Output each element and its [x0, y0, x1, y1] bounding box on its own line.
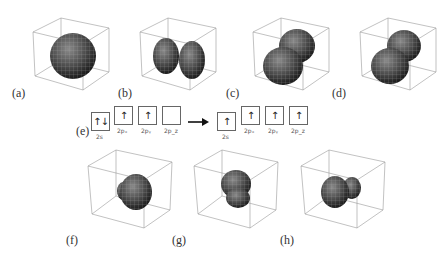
- orbital-box-2py-after: ↑: [265, 106, 284, 125]
- panel-label-g: (g): [172, 233, 186, 248]
- orbital-label: 2p_z: [291, 127, 305, 134]
- bounding-box-icon: [132, 10, 222, 100]
- panel-label-h: (h): [280, 233, 294, 248]
- config-label-e: (e): [76, 124, 89, 139]
- bounding-box-icon: [352, 10, 441, 100]
- panel-label-a: (a): [12, 86, 25, 101]
- orbital-label: 2pₓ: [117, 127, 127, 134]
- bounding-box-icon: [295, 144, 390, 239]
- orbital-box-2s-after: ↑: [217, 112, 236, 131]
- orbital-box-2pz-before: [162, 106, 181, 125]
- orbital-label: 2s: [222, 133, 229, 140]
- orbital-label: 2p_z: [164, 127, 178, 134]
- transition-arrow-icon: [188, 112, 210, 131]
- panel-b: [132, 10, 222, 100]
- orbital-box-2py-before: ↑: [138, 106, 157, 125]
- orbital-label: 2s: [96, 133, 103, 140]
- orbital-box-2pz-after: ↑: [289, 106, 308, 125]
- orbital-box-2s-before: ↑↓: [91, 112, 110, 131]
- orbital-box-2px-before: ↑: [114, 106, 133, 125]
- panel-h: [295, 144, 390, 239]
- panel-c: [245, 10, 335, 100]
- panel-g: [188, 144, 283, 239]
- bounding-box-icon: [82, 144, 177, 239]
- orbital-box-2px-after: ↑: [241, 106, 260, 125]
- orbital-label: 2pᵧ: [268, 127, 278, 134]
- panel-a: [25, 10, 115, 100]
- bounding-box-icon: [245, 10, 335, 100]
- orbital-label: 2pₓ: [244, 127, 254, 134]
- panel-d: [352, 10, 441, 100]
- panel-label-f: (f): [66, 233, 78, 248]
- bounding-box-icon: [25, 10, 115, 100]
- panel-label-b: (b): [118, 86, 132, 101]
- panel-label-d: (d): [332, 86, 346, 101]
- bounding-box-icon: [188, 144, 283, 239]
- panel-f: [82, 144, 177, 239]
- panel-label-c: (c): [226, 86, 239, 101]
- orbital-label: 2pᵧ: [141, 127, 151, 134]
